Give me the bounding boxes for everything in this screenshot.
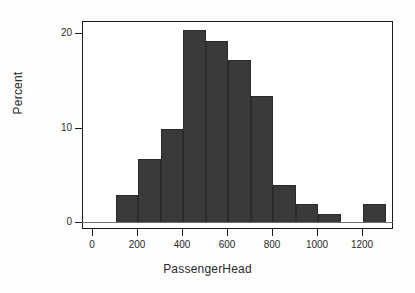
histogram-bar <box>363 204 386 223</box>
x-axis-tick <box>92 229 93 236</box>
y-axis-title: Percent <box>11 53 25 133</box>
histogram-bar <box>161 129 184 224</box>
baseline-rule <box>82 222 393 223</box>
x-axis-tick <box>182 229 183 236</box>
x-axis-tick <box>227 229 228 236</box>
x-axis-tick-label: 400 <box>174 239 191 250</box>
y-axis-tick-label: 20 <box>46 28 72 38</box>
x-axis-tick <box>317 229 318 236</box>
histogram-bar <box>138 159 161 223</box>
histogram-bar <box>296 204 319 223</box>
y-axis-tick-label: 0 <box>46 217 72 227</box>
histogram-bar <box>183 30 206 223</box>
y-axis-tick-label: 10 <box>46 123 72 133</box>
x-axis-tick-label: 1000 <box>306 239 328 250</box>
x-axis-tick <box>272 229 273 236</box>
y-axis-tick <box>75 128 82 129</box>
x-axis-tick <box>137 229 138 236</box>
histogram-bar <box>228 60 251 223</box>
x-axis-tick-label: 200 <box>129 239 146 250</box>
histogram-bar <box>116 195 139 223</box>
y-axis-tick <box>75 222 82 223</box>
x-axis-tick-label: 0 <box>89 239 95 250</box>
x-axis-tick-label: 1200 <box>351 239 373 250</box>
plot-area <box>82 21 393 229</box>
histogram-figure: 01020 020040060080010001200 PassengerHea… <box>0 0 415 293</box>
histogram-bar <box>251 96 274 223</box>
x-axis-tick-label: 600 <box>219 239 236 250</box>
x-axis-tick-label: 800 <box>264 239 281 250</box>
histogram-bar <box>206 41 229 223</box>
x-axis-title: PassengerHead <box>0 262 415 276</box>
bars-layer <box>83 22 392 228</box>
y-axis-tick <box>75 33 82 34</box>
x-axis-tick <box>362 229 363 236</box>
histogram-bar <box>273 185 296 223</box>
